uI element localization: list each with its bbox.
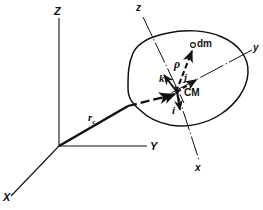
body-z-axis-label: z [136, 3, 141, 13]
diagram-svg [0, 0, 263, 210]
rigid-body-outline [128, 31, 248, 126]
unit-vector-i-label: i [172, 105, 175, 116]
unit-vector-k-label: k [159, 73, 165, 84]
inertial-x-axis-label: X [3, 192, 10, 203]
figure-canvas: Z Y X z y x dm CM rc ρ k j i [0, 0, 263, 210]
inertial-z-axis-label: Z [54, 6, 61, 17]
mass-element-label: dm [197, 39, 212, 49]
vector-rc-label: rc [88, 112, 95, 126]
mass-element-point [191, 43, 196, 48]
center-of-mass-point [175, 90, 179, 94]
center-of-mass-label: CM [184, 88, 200, 98]
inertial-x-axis [11, 146, 59, 196]
inertial-y-axis-label: Y [150, 141, 157, 152]
vector-rho-label: ρ [174, 58, 180, 70]
vector-rc-subscript: c [92, 118, 95, 126]
body-x-axis-label: x [195, 163, 201, 173]
body-y-axis-label: y [253, 43, 259, 53]
unit-vector-j-label: j [184, 72, 187, 83]
